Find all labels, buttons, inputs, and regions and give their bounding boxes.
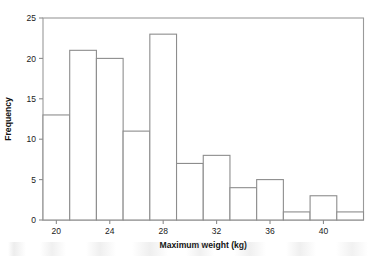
histogram-bar <box>123 131 150 220</box>
x-axis-tick-label: 24 <box>105 226 115 236</box>
histogram-bar <box>203 155 230 220</box>
y-axis-tick-label: 0 <box>31 215 36 225</box>
x-axis-tick-label: 40 <box>319 226 329 236</box>
x-axis-title: Maximum weight (kg) <box>160 240 248 250</box>
chart-canvas: 2024283236400510152025Maximum weight (kg… <box>0 0 375 256</box>
histogram-bar <box>96 58 123 220</box>
x-axis-tick-label: 36 <box>265 226 275 236</box>
y-axis-tick-label: 10 <box>27 134 37 144</box>
histogram-bar <box>70 50 97 220</box>
histogram-bar <box>43 115 70 220</box>
histogram-chart: 2024283236400510152025Maximum weight (kg… <box>0 0 375 256</box>
histogram-bar <box>177 163 204 220</box>
histogram-bar <box>310 196 337 220</box>
x-axis-tick-label: 20 <box>52 226 62 236</box>
y-axis-tick-label: 25 <box>27 13 37 23</box>
histogram-bar <box>337 212 364 220</box>
histogram-bar <box>230 188 257 220</box>
histogram-bar <box>283 212 310 220</box>
y-axis-title: Frequency <box>3 97 13 141</box>
y-axis-tick-label: 15 <box>27 94 37 104</box>
x-axis-tick-label: 32 <box>212 226 222 236</box>
histogram-bar <box>257 180 284 220</box>
y-axis-tick-label: 20 <box>27 54 37 64</box>
x-axis-tick-label: 28 <box>158 226 168 236</box>
y-axis-tick-label: 5 <box>31 175 36 185</box>
histogram-bar <box>150 34 177 220</box>
